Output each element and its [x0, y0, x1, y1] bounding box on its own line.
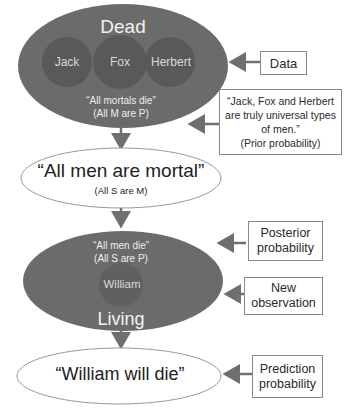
dead-formula: (All M are P)	[73, 108, 169, 119]
dead-statement: “All mortals die”	[63, 95, 179, 106]
posterior-line-2: probability	[249, 241, 322, 256]
living-title: Living	[76, 309, 166, 330]
prior-line-4: (Prior probability)	[220, 136, 341, 150]
living-statement: “All men die”	[76, 240, 166, 251]
dead-title: Dead	[73, 16, 173, 38]
prior-line-1: “Jack, Fox and Herbert	[220, 94, 341, 108]
prior-line-2: are truly universal types	[220, 108, 341, 122]
new-observation-box: New observation	[244, 277, 323, 315]
prior-line-3: of men.”	[220, 122, 341, 136]
prediction-line-1: Prediction	[253, 362, 322, 377]
william-label: William	[96, 278, 148, 290]
prediction-statement: “William will die”	[38, 364, 202, 385]
posterior-probability-box: Posterior probability	[248, 221, 323, 261]
posterior-line-1: Posterior	[249, 226, 322, 241]
data-label: Data	[261, 56, 306, 71]
data-box: Data	[260, 51, 307, 75]
new-observation-line-2: observation	[245, 296, 322, 311]
fox-label: Fox	[95, 55, 145, 69]
prediction-probability-box: Prediction probability	[252, 355, 323, 398]
prediction-line-2: probability	[253, 377, 322, 392]
men-mortal-formula: (All S are M)	[81, 185, 161, 196]
living-formula: (All S are P)	[76, 253, 166, 264]
men-mortal-statement: “All men are mortal”	[36, 160, 206, 182]
prior-probability-box: “Jack, Fox and Herbert are truly univers…	[219, 89, 342, 155]
new-observation-line-1: New	[245, 281, 322, 296]
jack-label: Jack	[42, 55, 92, 69]
herbert-label: Herbert	[145, 55, 197, 69]
